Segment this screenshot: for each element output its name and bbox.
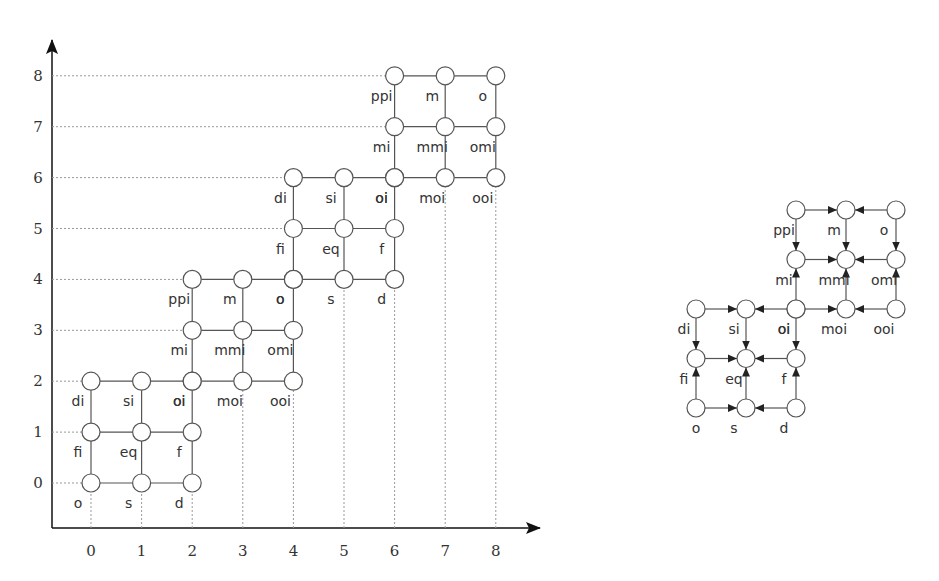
lattice-node xyxy=(82,423,100,441)
node-label: m xyxy=(827,222,841,238)
lattice-node xyxy=(284,270,302,288)
node-label: o xyxy=(880,222,889,238)
node-label: ooi xyxy=(270,393,291,409)
y-tick-label: 8 xyxy=(33,67,43,85)
node-label: mmi xyxy=(214,342,245,358)
node-label: f xyxy=(782,371,788,387)
arrow-node xyxy=(837,201,855,219)
node-label: di xyxy=(72,393,85,409)
node-label: eq xyxy=(322,241,340,257)
node-label: mmi xyxy=(417,139,448,155)
arrow-node xyxy=(787,300,805,318)
node-label: di xyxy=(678,321,691,337)
node-label: f xyxy=(379,241,385,257)
node-label: o xyxy=(74,495,83,511)
y-tick-label: 7 xyxy=(33,118,43,136)
node-label: s xyxy=(125,495,132,511)
x-tick-label: 6 xyxy=(390,542,400,560)
lattice-node xyxy=(183,372,201,390)
arrow-node xyxy=(837,300,855,318)
node-label: eq xyxy=(120,444,138,460)
lattice-node xyxy=(133,423,151,441)
node-label: oi xyxy=(173,393,185,409)
lattice-node xyxy=(183,270,201,288)
x-tick-label: 0 xyxy=(86,542,96,560)
lattice-node xyxy=(234,270,252,288)
node-label: moi xyxy=(217,393,243,409)
lattice-node xyxy=(284,321,302,339)
arrow-node xyxy=(787,251,805,269)
node-label: f xyxy=(177,444,183,460)
node-label: d xyxy=(377,291,386,307)
node-label: ppi xyxy=(371,88,393,104)
node-label: moi xyxy=(419,190,445,206)
y-tick-label: 4 xyxy=(33,270,43,288)
node-label: ooi xyxy=(472,190,493,206)
node-label: fi xyxy=(276,241,285,257)
node-label: fi xyxy=(680,371,689,387)
node-label: fi xyxy=(74,444,83,460)
lattice-node xyxy=(335,169,353,187)
arrow-node xyxy=(787,350,805,368)
lattice-node xyxy=(82,372,100,390)
lattice-node xyxy=(284,220,302,238)
node-label: si xyxy=(123,393,134,409)
node-label: si xyxy=(728,321,739,337)
lattice-node xyxy=(234,372,252,390)
x-tick-label: 8 xyxy=(491,542,501,560)
lattice-node xyxy=(82,474,100,492)
node-label: omi xyxy=(470,139,496,155)
lattice-node xyxy=(386,220,404,238)
left-lattice-diagram: 012345678012345678osdfieqfdisioioimoiooi… xyxy=(33,40,540,560)
lattice-node xyxy=(183,321,201,339)
node-label: di xyxy=(274,190,287,206)
right-arrow-diagram: osdfieqfdisioioimoiooimimmiomippimo xyxy=(678,201,905,436)
node-label: ppi xyxy=(773,222,795,238)
lattice-node xyxy=(386,67,404,85)
node-label: m xyxy=(425,88,439,104)
x-tick-label: 3 xyxy=(238,542,248,560)
arrow-node xyxy=(737,300,755,318)
x-tick-label: 5 xyxy=(339,542,349,560)
lattice-node xyxy=(436,169,454,187)
lattice-node xyxy=(284,169,302,187)
node-label: ooi xyxy=(873,321,894,337)
arrow-node xyxy=(737,399,755,417)
lattice-node xyxy=(284,372,302,390)
lattice-node xyxy=(183,423,201,441)
lattice-node xyxy=(335,220,353,238)
lattice-node xyxy=(436,67,454,85)
lattice-node xyxy=(183,474,201,492)
diagram-canvas: 012345678012345678osdfieqfdisioioimoiooi… xyxy=(0,0,939,581)
x-tick-label: 7 xyxy=(440,542,450,560)
arrow-node xyxy=(787,399,805,417)
node-label: mmi xyxy=(818,272,849,288)
lattice-node xyxy=(234,321,252,339)
x-tick-label: 4 xyxy=(289,542,299,560)
arrow-node xyxy=(787,201,805,219)
y-tick-label: 5 xyxy=(33,220,43,238)
node-label: d xyxy=(780,420,789,436)
node-label: m xyxy=(223,291,237,307)
lattice-node xyxy=(133,474,151,492)
lattice-node xyxy=(335,270,353,288)
node-label: o xyxy=(276,291,285,307)
y-tick-label: 1 xyxy=(33,423,43,441)
y-tick-label: 2 xyxy=(33,372,43,390)
arrow-node xyxy=(837,251,855,269)
node-label: mi xyxy=(775,272,793,288)
lattice-node xyxy=(487,169,505,187)
lattice-node xyxy=(386,270,404,288)
node-label: ppi xyxy=(168,291,190,307)
arrow-node xyxy=(887,251,905,269)
node-label: s xyxy=(730,420,737,436)
x-tick-label: 2 xyxy=(187,542,197,560)
node-label: omi xyxy=(871,272,897,288)
arrow-node xyxy=(887,201,905,219)
y-tick-label: 6 xyxy=(33,169,43,187)
node-label: omi xyxy=(267,342,293,358)
arrow-node xyxy=(737,350,755,368)
node-label: eq xyxy=(725,371,743,387)
lattice-node xyxy=(436,118,454,136)
node-label: si xyxy=(325,190,336,206)
